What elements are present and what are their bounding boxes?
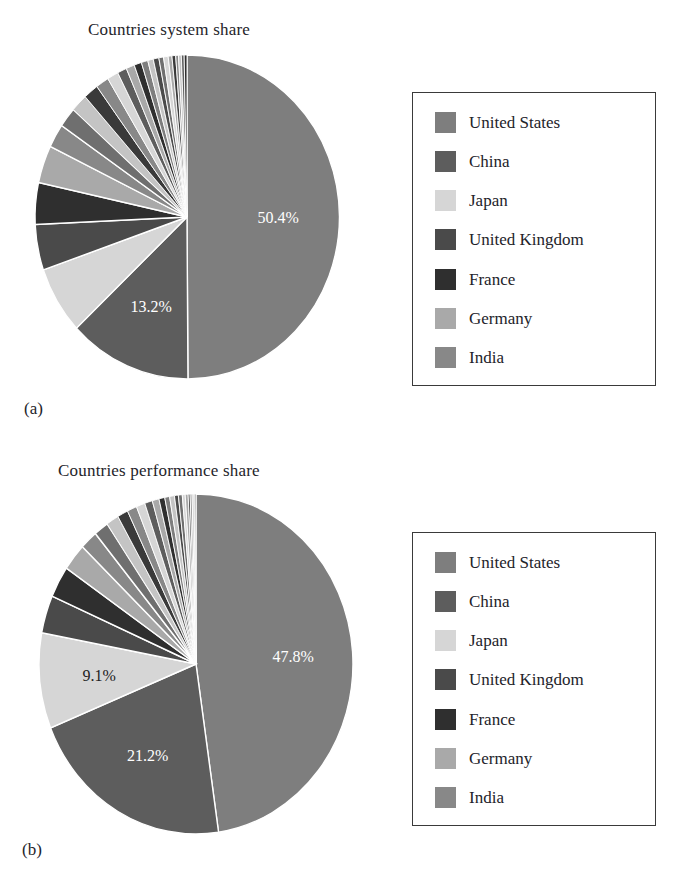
legend-swatch-icon — [435, 190, 456, 211]
legend-item-united-kingdom[interactable]: United Kingdom — [435, 663, 647, 697]
legend-label: United Kingdom — [469, 671, 584, 688]
panel-tag-b: (b) — [22, 840, 42, 860]
legend-label: France — [469, 711, 515, 728]
legend-label: United States — [469, 554, 560, 571]
legend-label: China — [469, 593, 510, 610]
legend-item-united-states[interactable]: United States — [435, 545, 647, 579]
legend-swatch-icon — [435, 787, 456, 808]
legend-swatch-icon — [435, 630, 456, 651]
pie-slice-percent-label: 9.1% — [82, 667, 115, 684]
legend-label: Germany — [469, 750, 532, 767]
legend-swatch-icon — [435, 308, 456, 329]
legend-item-india[interactable]: India — [435, 341, 647, 375]
chart-title-b: Countries performance share — [58, 461, 260, 481]
chart-title-a: Countries system share — [88, 20, 250, 40]
legend-a-list: United States China Japan United Kingdom… — [435, 105, 647, 375]
panel-a: Countries system share 50.4%13.2% United… — [0, 0, 682, 440]
legend-label: Japan — [469, 192, 508, 209]
legend-swatch-icon — [435, 229, 456, 250]
pie-slice-percent-label: 13.2% — [130, 298, 171, 315]
legend-item-china[interactable]: China — [435, 584, 647, 618]
pie-slice-percent-label: 47.8% — [272, 648, 313, 665]
legend-swatch-icon — [435, 669, 456, 690]
legend-item-france[interactable]: France — [435, 702, 647, 736]
legend-b: United States China Japan United Kingdom… — [412, 532, 656, 826]
legend-label: United Kingdom — [469, 231, 584, 248]
legend-swatch-icon — [435, 748, 456, 769]
legend-item-germany[interactable]: Germany — [435, 742, 647, 776]
legend-b-list: United States China Japan United Kingdom… — [435, 545, 647, 815]
legend-swatch-icon — [435, 552, 456, 573]
legend-swatch-icon — [435, 347, 456, 368]
legend-label: India — [469, 789, 504, 806]
legend-swatch-icon — [435, 151, 456, 172]
legend-item-india[interactable]: India — [435, 781, 647, 815]
pie-chart-a-svg: 50.4%13.2% — [32, 52, 342, 382]
legend-item-germany[interactable]: Germany — [435, 302, 647, 336]
legend-a: United States China Japan United Kingdom… — [412, 92, 656, 386]
pie-chart-a: 50.4%13.2% — [32, 52, 342, 382]
legend-item-france[interactable]: France — [435, 262, 647, 296]
legend-item-japan[interactable]: Japan — [435, 184, 647, 218]
pie-chart-b: 47.8%21.2%9.1% — [36, 492, 356, 837]
panel-tag-a: (a) — [24, 399, 43, 419]
legend-item-united-kingdom[interactable]: United Kingdom — [435, 223, 647, 257]
legend-item-china[interactable]: China — [435, 144, 647, 178]
legend-label: China — [469, 153, 510, 170]
legend-label: India — [469, 349, 504, 366]
pie-slice-percent-label: 21.2% — [127, 747, 168, 764]
legend-label: France — [469, 271, 515, 288]
legend-label: Japan — [469, 632, 508, 649]
legend-swatch-icon — [435, 709, 456, 730]
legend-swatch-icon — [435, 269, 456, 290]
legend-swatch-icon — [435, 112, 456, 133]
pie-slice-percent-label: 50.4% — [258, 209, 299, 226]
legend-label: United States — [469, 114, 560, 131]
pie-chart-b-svg: 47.8%21.2%9.1% — [36, 492, 356, 837]
legend-item-united-states[interactable]: United States — [435, 105, 647, 139]
legend-label: Germany — [469, 310, 532, 327]
legend-swatch-icon — [435, 591, 456, 612]
legend-item-japan[interactable]: Japan — [435, 624, 647, 658]
